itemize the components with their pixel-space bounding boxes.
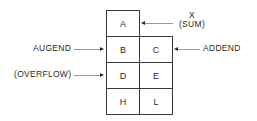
register-c: C bbox=[139, 36, 173, 63]
sum-arrow-line bbox=[145, 23, 173, 24]
register-a: A bbox=[106, 10, 140, 37]
register-e: E bbox=[139, 62, 173, 89]
augend-arrow-head-icon bbox=[100, 47, 104, 51]
register-d-label: D bbox=[120, 71, 127, 81]
sum-label: X (SUM) bbox=[174, 11, 210, 29]
register-d: D bbox=[106, 62, 140, 89]
augend-arrow-line bbox=[74, 49, 101, 50]
overflow-arrow-line bbox=[74, 75, 101, 76]
register-l: L bbox=[139, 88, 173, 115]
register-b-label: B bbox=[120, 45, 126, 55]
sum-text: (SUM) bbox=[174, 20, 210, 29]
register-e-label: E bbox=[153, 71, 159, 81]
register-b: B bbox=[106, 36, 140, 63]
register-h-label: H bbox=[120, 97, 127, 107]
sum-arrow-head-icon bbox=[141, 21, 145, 25]
addend-arrow-line bbox=[178, 49, 200, 50]
register-h: H bbox=[106, 88, 140, 115]
addend-arrow-head-icon bbox=[174, 47, 178, 51]
register-a-label: A bbox=[120, 19, 126, 29]
register-c-label: C bbox=[153, 45, 160, 55]
addend-label: ADDEND bbox=[203, 43, 241, 53]
augend-label: AUGEND bbox=[33, 43, 71, 53]
register-l-label: L bbox=[153, 97, 158, 107]
overflow-arrow-head-icon bbox=[100, 73, 104, 77]
overflow-label: (OVERFLOW) bbox=[14, 69, 71, 79]
